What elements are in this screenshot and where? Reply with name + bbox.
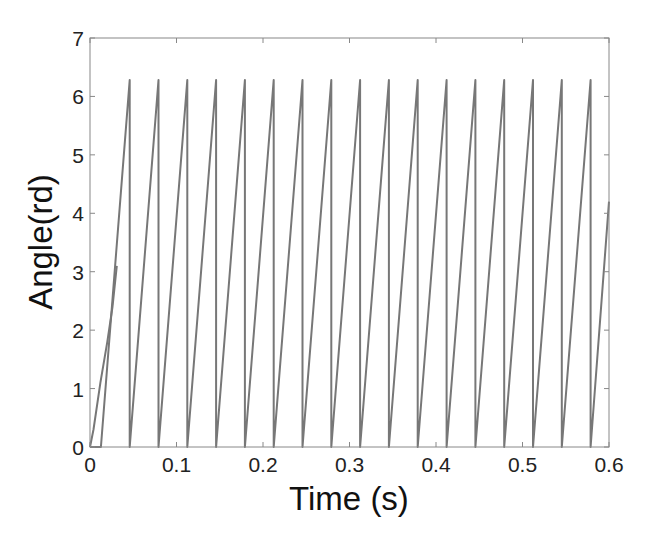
series-layer xyxy=(90,80,609,447)
x-tick-label: 0.1 xyxy=(162,453,191,476)
y-tick-label: 5 xyxy=(72,144,84,167)
x-axis-label: Time (s) xyxy=(289,480,409,517)
x-tick-label: 0.6 xyxy=(594,453,623,476)
y-tick-label: 3 xyxy=(72,261,84,284)
x-tick-label: 0.3 xyxy=(335,453,364,476)
chart: 00.10.20.30.40.50.6 01234567 Time (s) An… xyxy=(0,0,653,538)
y-tick-label: 0 xyxy=(72,436,84,459)
y-axis-label: Angle(rd) xyxy=(22,174,59,310)
x-tick-label: 0.2 xyxy=(248,453,277,476)
y-tick-label: 1 xyxy=(72,378,84,401)
y-tick-label: 4 xyxy=(72,202,84,225)
y-tick-label: 7 xyxy=(72,27,84,50)
y-tick-label: 2 xyxy=(72,319,84,342)
y-tick-label: 6 xyxy=(72,85,84,108)
x-tick-label: 0.5 xyxy=(508,453,537,476)
x-axis-ticks: 00.10.20.30.40.50.6 xyxy=(84,38,623,476)
x-tick-label: 0 xyxy=(84,453,96,476)
data-series-0 xyxy=(90,80,609,447)
x-tick-label: 0.4 xyxy=(421,453,451,476)
y-axis-ticks: 01234567 xyxy=(72,27,609,459)
